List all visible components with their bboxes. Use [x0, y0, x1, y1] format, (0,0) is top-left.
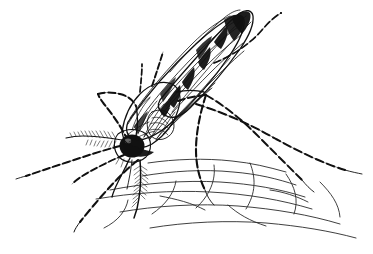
mosquito-illustration: Mosquito feeding on skin	[0, 0, 373, 254]
illustration-canvas	[0, 0, 373, 254]
canvas-background	[0, 0, 373, 254]
